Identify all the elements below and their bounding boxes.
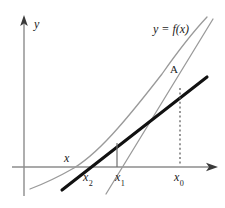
- x1-subscript: 1: [121, 179, 125, 188]
- x1-label: x1: [115, 171, 124, 187]
- point-a-label: A: [170, 64, 178, 75]
- y-axis-label: y: [34, 18, 39, 30]
- x0-subscript: 0: [180, 179, 184, 188]
- root-x-label: x: [64, 152, 69, 164]
- x2-subscript: 2: [89, 179, 93, 188]
- y-axis: [20, 15, 28, 196]
- figure-canvas: [0, 0, 225, 208]
- x1-base: x: [115, 170, 120, 184]
- x2-base: x: [83, 170, 88, 184]
- x2-label: x2: [83, 171, 92, 187]
- tangent-line: [106, 19, 213, 194]
- figure-container: y y = f(x) A x x2 x1 x0: [0, 0, 225, 208]
- x0-label: x0: [174, 171, 183, 187]
- x0-base: x: [174, 170, 179, 184]
- curve-equation-label: y = f(x): [153, 23, 189, 35]
